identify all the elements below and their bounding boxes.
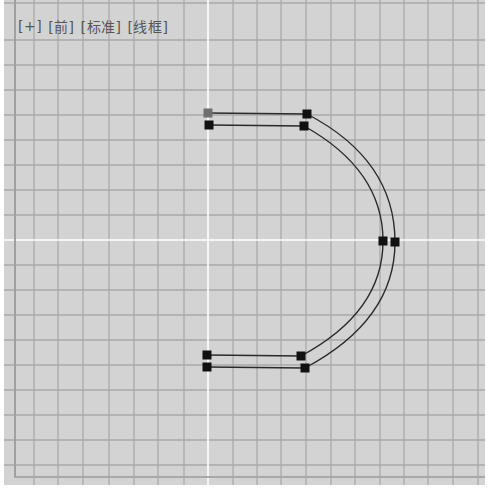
- spline-first-vertex-handle[interactable]: [204, 109, 213, 118]
- spline-vertex-handle[interactable]: [391, 238, 400, 247]
- spline-vertex-handle[interactable]: [300, 122, 309, 131]
- viewport-shading-standard-label[interactable]: [标准]: [81, 16, 122, 36]
- world-axes: [4, 0, 485, 485]
- spline-vertex-handle[interactable]: [205, 121, 214, 130]
- viewport-shading-mode-label[interactable]: [线框]: [128, 16, 169, 36]
- front-viewport[interactable]: [+] [前] [标准] [线框]: [4, 0, 485, 485]
- viewport-menu-plus[interactable]: [+]: [18, 18, 42, 34]
- spline-vertex-handle[interactable]: [379, 237, 388, 246]
- spline-vertex-handle[interactable]: [203, 363, 212, 372]
- spline-vertex-handle[interactable]: [301, 364, 310, 373]
- spline-vertex-handle[interactable]: [297, 352, 306, 361]
- viewport-label-bar: [+] [前] [标准] [线框]: [18, 16, 168, 36]
- spline-vertex-handle[interactable]: [303, 110, 312, 119]
- viewport-canvas[interactable]: [4, 0, 485, 485]
- viewport-view-label[interactable]: [前]: [48, 16, 74, 36]
- grid: [4, 0, 485, 485]
- spline-vertex-handle[interactable]: [203, 351, 212, 360]
